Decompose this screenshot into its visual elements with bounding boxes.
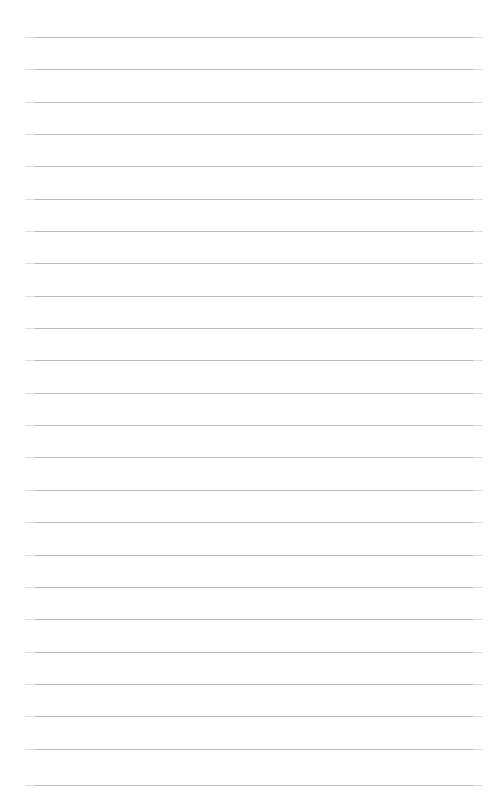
rule-line (25, 425, 483, 426)
rule-line (25, 619, 483, 620)
rule-line (25, 555, 483, 556)
rule-line (25, 360, 483, 361)
rule-line (25, 457, 483, 458)
rule-line (25, 652, 483, 653)
rule-line (25, 684, 483, 685)
rule-line (25, 37, 483, 38)
rule-line (25, 134, 483, 135)
rule-line (25, 393, 483, 394)
rule-line (25, 231, 483, 232)
rule-line (25, 166, 483, 167)
rule-line (25, 785, 483, 786)
rule-line (25, 263, 483, 264)
rule-line (25, 328, 483, 329)
lined-paper-page (0, 0, 495, 812)
rule-line (25, 749, 483, 750)
rule-line (25, 69, 483, 70)
rule-line (25, 716, 483, 717)
rule-line (25, 296, 483, 297)
rule-line (25, 102, 483, 103)
rule-line (25, 490, 483, 491)
rule-line (25, 522, 483, 523)
rule-line (25, 587, 483, 588)
ruling-lines-group (0, 0, 495, 812)
rule-line (25, 199, 483, 200)
